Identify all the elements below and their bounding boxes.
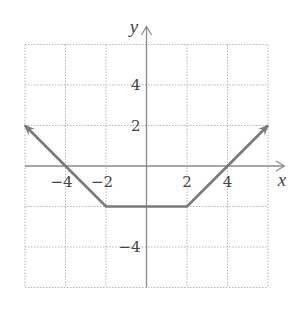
x-tick-label: 2	[182, 173, 192, 191]
x-axis-label: x	[277, 169, 287, 190]
y-tick-label: −4	[118, 238, 140, 256]
y-axis-label: y	[128, 16, 139, 37]
x-tick-label: 4	[223, 173, 233, 191]
tick-labels: −4−22442−4xy	[50, 16, 286, 256]
axes	[25, 27, 285, 288]
x-tick-label: −4	[50, 173, 72, 191]
x-tick-label: −2	[91, 173, 113, 191]
y-tick-label: 2	[131, 117, 141, 135]
y-tick-label: 4	[131, 76, 141, 94]
function-graph: −4−22442−4xy	[0, 0, 297, 311]
